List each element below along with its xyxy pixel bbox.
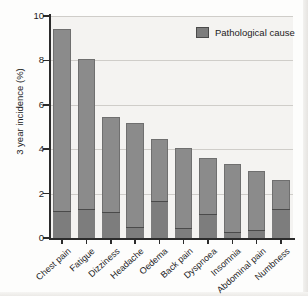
legend-label-pathological-cause: Pathological cause bbox=[215, 27, 295, 38]
page-edge-right bbox=[303, 0, 308, 296]
bar-segment-pathological-chest-pain bbox=[53, 211, 71, 238]
y-tick-label-8: 8 bbox=[4, 55, 44, 65]
y-tick-label-10: 10 bbox=[4, 11, 44, 21]
chart-legend: Pathological cause bbox=[196, 27, 295, 38]
legend-swatch-pathological-cause bbox=[196, 27, 209, 38]
y-tick-label-6: 6 bbox=[4, 100, 44, 110]
x-axis-label-text: Chest pain bbox=[34, 246, 73, 282]
bar-fatigue[interactable] bbox=[78, 59, 96, 238]
y-axis-line bbox=[49, 14, 51, 240]
chart-figure: 3 year incidence (%) 0246810 Chest painF… bbox=[0, 0, 308, 296]
x-tick-0 bbox=[61, 239, 63, 244]
bar-chest-pain[interactable] bbox=[53, 29, 71, 238]
y-axis-title: 3 year incidence (%) bbox=[14, 47, 25, 177]
bar-dizziness[interactable] bbox=[102, 117, 120, 238]
page-edge-bottom bbox=[0, 292, 308, 296]
plot-area bbox=[50, 16, 293, 238]
y-tick-label-4: 4 bbox=[4, 144, 44, 154]
y-tick-label-2: 2 bbox=[4, 189, 44, 199]
y-tick-label-0: 0 bbox=[4, 233, 44, 243]
gridline-10 bbox=[50, 16, 293, 17]
